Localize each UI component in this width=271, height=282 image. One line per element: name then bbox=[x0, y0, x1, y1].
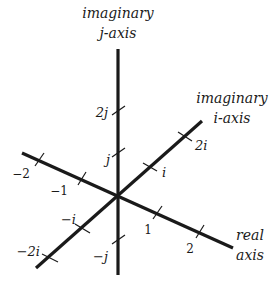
label-2i: 2i bbox=[194, 138, 207, 153]
real-axis-line bbox=[22, 153, 233, 248]
three-axis-complex-diagram: imaginary j-axis imaginary i-axis real a… bbox=[0, 0, 271, 282]
real-axis-title-line2: axis bbox=[236, 247, 264, 263]
label-real-1: 1 bbox=[144, 223, 152, 237]
label-neg-i: −i bbox=[61, 212, 76, 227]
label-neg-2i: −2i bbox=[17, 244, 40, 259]
real-axis-title-line1: real bbox=[236, 227, 264, 243]
i-axis-title-line2: i-axis bbox=[213, 110, 250, 126]
j-axis-title-line2: j-axis bbox=[97, 25, 137, 41]
label-real-neg2: −2 bbox=[12, 167, 30, 181]
label-real-neg1: −1 bbox=[50, 184, 68, 198]
j-axis-title-line1: imaginary bbox=[82, 5, 155, 21]
i-axis-title-line1: imaginary bbox=[196, 90, 269, 106]
label-neg-j: −j bbox=[93, 249, 108, 264]
label-j: j bbox=[103, 152, 110, 167]
label-real-2: 2 bbox=[186, 242, 194, 256]
label-i: i bbox=[162, 165, 166, 180]
label-2j: 2j bbox=[95, 105, 108, 120]
